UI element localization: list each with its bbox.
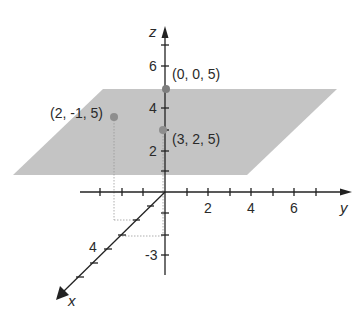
z-tick-label-4: 4 xyxy=(149,101,157,115)
point-label-2-neg1-5: (2, -1, 5) xyxy=(50,106,103,120)
y-axis-arrow-icon xyxy=(340,189,352,196)
point-label-0-0-5: (0, 0, 5) xyxy=(172,67,220,81)
z-axis-label: z xyxy=(149,25,157,39)
y-axis xyxy=(80,188,343,196)
point-2-neg1-5 xyxy=(110,113,118,121)
point-0-0-5 xyxy=(162,85,170,93)
diagram-canvas xyxy=(0,0,363,318)
z-tick-label-6: 6 xyxy=(149,59,157,73)
point-label-3-2-5: (3, 2, 5) xyxy=(172,132,220,146)
z-axis-arrow-icon xyxy=(162,26,169,38)
point-3-2-5 xyxy=(159,126,167,134)
y-tick-label-4: 4 xyxy=(247,201,255,215)
x-axis-label: x xyxy=(68,294,76,308)
y-axis-label: y xyxy=(340,201,348,215)
y-tick-label-2: 2 xyxy=(204,201,212,215)
z-tick-label-neg3: -3 xyxy=(145,248,157,262)
z-tick-label-2: 2 xyxy=(149,144,157,158)
y-tick-label-6: 6 xyxy=(290,201,298,215)
x-tick-label-4: 4 xyxy=(89,240,97,254)
